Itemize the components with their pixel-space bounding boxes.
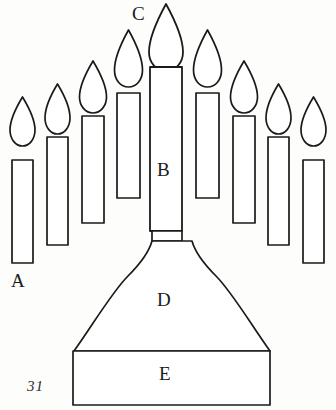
neck-collar bbox=[152, 231, 182, 241]
part-label-b: B bbox=[157, 160, 170, 179]
candle-group-8 bbox=[266, 84, 291, 245]
flame-icon bbox=[231, 61, 258, 113]
flame-icon bbox=[45, 84, 70, 134]
candle-group-4 bbox=[115, 30, 143, 198]
part-label-d: D bbox=[157, 290, 171, 309]
figure-canvas: A B C D E 31 bbox=[0, 0, 336, 410]
candelabrum-drawing bbox=[0, 0, 336, 410]
figure-number: 31 bbox=[27, 379, 44, 394]
plinth-e bbox=[73, 351, 270, 405]
candle-group-9 bbox=[301, 97, 326, 263]
part-label-a: A bbox=[11, 271, 25, 290]
flame-icon bbox=[301, 97, 326, 146]
candle-body bbox=[117, 93, 140, 198]
candle-body bbox=[82, 116, 104, 223]
candle-body bbox=[12, 160, 33, 263]
candle-body bbox=[47, 137, 68, 245]
candle-group-3 bbox=[80, 61, 107, 223]
part-label-c: C bbox=[132, 4, 145, 23]
candle-body bbox=[233, 116, 255, 223]
flame-icon bbox=[10, 97, 35, 146]
part-label-e: E bbox=[159, 364, 171, 383]
flame-icon bbox=[149, 4, 183, 71]
candle-body bbox=[268, 137, 289, 245]
flame-icon bbox=[80, 61, 107, 113]
candle-group-5-center bbox=[149, 4, 183, 231]
candle-group-1 bbox=[10, 97, 35, 263]
candle-body-central-shaft bbox=[150, 67, 182, 231]
base-assembly bbox=[73, 231, 270, 405]
candle-body bbox=[196, 93, 219, 198]
candle-group-6 bbox=[194, 30, 222, 198]
candle-group-7 bbox=[231, 61, 258, 223]
candle-group-2 bbox=[45, 84, 70, 245]
flame-icon bbox=[115, 30, 143, 87]
flame-icon bbox=[194, 30, 222, 87]
flared-base-d bbox=[74, 241, 270, 351]
flame-icon bbox=[266, 84, 291, 134]
candle-body bbox=[303, 160, 324, 263]
